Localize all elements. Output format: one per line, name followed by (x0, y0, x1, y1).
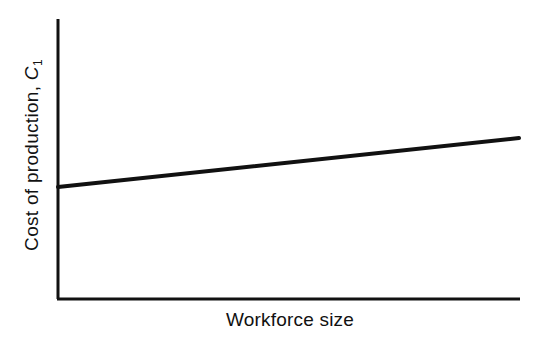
cost-line (58, 138, 519, 187)
chart-canvas (0, 0, 543, 345)
x-axis-label: Workforce size (0, 309, 543, 331)
y-axis-label: Cost of production, C1 (21, 59, 46, 251)
